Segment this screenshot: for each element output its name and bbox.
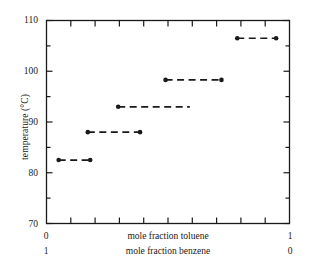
data-point-marker [56, 158, 61, 163]
axis-ticks [47, 21, 290, 224]
plot-area [0, 0, 316, 264]
data-point-marker [116, 104, 121, 109]
data-point-marker [274, 36, 279, 41]
data-point-marker [86, 130, 91, 135]
data-point-marker [138, 130, 143, 135]
data-segment [235, 36, 278, 41]
data-point-marker [219, 78, 224, 83]
chart-figure: temperature (°C) 110 100 90 80 70 0 1 mo… [0, 0, 316, 264]
plot-frame [47, 21, 290, 224]
data-series-group [56, 36, 278, 162]
data-segment [116, 104, 190, 109]
data-point-marker [163, 78, 168, 83]
data-segment [86, 130, 143, 135]
data-point-marker [235, 36, 240, 41]
data-point-marker [88, 158, 93, 163]
data-segment [163, 78, 223, 83]
data-segment [56, 158, 92, 163]
